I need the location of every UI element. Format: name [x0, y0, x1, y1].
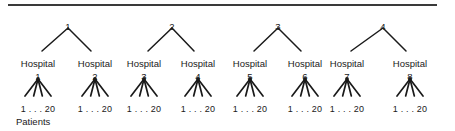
- patient-range-h5: 1 . . . 20: [233, 105, 268, 114]
- top-edge-4-left: [351, 28, 383, 51]
- hospital-label-4: Hospital: [181, 59, 215, 69]
- top-node-label-3: 3: [275, 22, 280, 32]
- patient-range-h6: 1 . . . 20: [288, 105, 323, 114]
- hospital-number-8: 8: [407, 72, 412, 82]
- top-node-label-4: 4: [380, 22, 385, 32]
- hospital-label-6: Hospital: [288, 59, 322, 69]
- top-edge-4-right: [383, 28, 406, 51]
- hospital-label-7: Hospital: [330, 59, 364, 69]
- top-edge-2-right: [172, 28, 194, 51]
- tree-diagram-figure: 1234Hospital11 . . . 20Hospital21 . . . …: [0, 0, 455, 131]
- top-edge-3-right: [278, 28, 301, 51]
- hospital-number-2: 2: [92, 72, 97, 82]
- hospital-number-5: 5: [247, 72, 252, 82]
- hospital-label-2: Hospital: [78, 59, 112, 69]
- hospital-label-5: Hospital: [233, 59, 267, 69]
- hospital-number-3: 3: [141, 72, 146, 82]
- top-node-label-1: 1: [65, 22, 70, 32]
- hospital-number-7: 7: [344, 72, 349, 82]
- hospital-number-6: 6: [302, 72, 307, 82]
- patient-range-h1: 1 . . . 20: [21, 105, 56, 114]
- patient-range-h8: 1 . . . 20: [393, 105, 428, 114]
- patients-caption: Patients: [16, 117, 50, 127]
- patient-range-h2: 1 . . . 20: [78, 105, 113, 114]
- patient-range-h4: 1 . . . 20: [181, 105, 216, 114]
- hospital-label-3: Hospital: [127, 59, 161, 69]
- tree-edges: [0, 0, 455, 131]
- top-edge-1-right: [68, 28, 91, 51]
- hospital-number-4: 4: [195, 72, 200, 82]
- top-node-label-2: 2: [169, 22, 174, 32]
- hospital-label-1: Hospital: [21, 59, 55, 69]
- top-edge-1-left: [42, 28, 68, 51]
- patient-range-h3: 1 . . . 20: [127, 105, 162, 114]
- hospital-number-1: 1: [35, 72, 40, 82]
- hospital-label-8: Hospital: [393, 59, 427, 69]
- patient-range-h7: 1 . . . 20: [330, 105, 365, 114]
